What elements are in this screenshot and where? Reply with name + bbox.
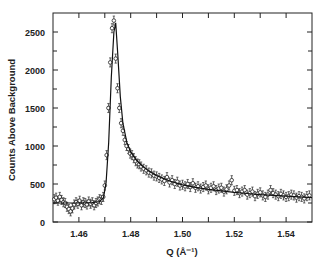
y-tick-label: 0 xyxy=(40,218,45,228)
x-tick-label: 1.52 xyxy=(226,229,244,239)
x-tick-label: 1.46 xyxy=(70,229,88,239)
x-tick-label: 1.48 xyxy=(122,229,140,239)
x-tick-label: 1.50 xyxy=(174,229,192,239)
y-axis-title: Counts Above Background xyxy=(6,59,17,181)
fit-curve xyxy=(53,23,312,203)
data-point xyxy=(116,84,120,93)
data-point xyxy=(114,54,118,63)
data-point xyxy=(230,176,234,185)
x-axis-title: Q (Å⁻¹) xyxy=(166,246,197,257)
y-tick-label: 1000 xyxy=(25,142,45,152)
data-point xyxy=(308,191,312,200)
y-tick-label: 2000 xyxy=(25,66,45,76)
data-points xyxy=(52,16,311,216)
y-tick-label: 1500 xyxy=(25,104,45,114)
x-tick-label: 1.54 xyxy=(277,229,295,239)
y-axis-ticks: 05001000150020002500 xyxy=(25,28,312,228)
chart: 1.461.481.501.521.54 0500100015002000250… xyxy=(0,0,323,264)
y-tick-label: 2500 xyxy=(25,28,45,38)
x-axis-ticks: 1.461.481.501.521.54 xyxy=(70,13,295,239)
y-tick-label: 500 xyxy=(30,180,45,190)
